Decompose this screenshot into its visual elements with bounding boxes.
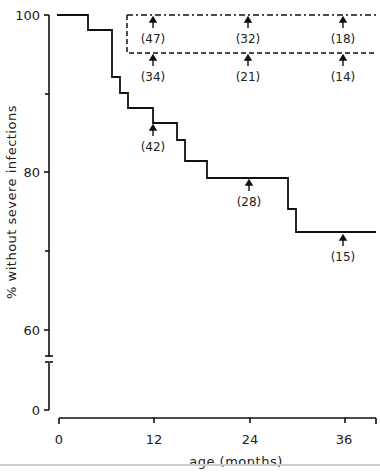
series-solid-step-line — [57, 15, 376, 232]
x-tick-labels: 0 12 24 36 — [55, 432, 352, 447]
x-tick-24: 24 — [242, 432, 259, 447]
y-axis — [44, 15, 53, 410]
y-tick-80: 80 — [23, 165, 40, 180]
at-risk-c-36: (15) — [331, 250, 356, 264]
x-tick-36: 36 — [336, 432, 353, 447]
at-risk-a-36: (18) — [331, 32, 356, 46]
at-risk-a-12: (47) — [141, 32, 166, 46]
y-tick-100: 100 — [15, 8, 40, 23]
bottom-rule — [0, 464, 380, 466]
x-tick-0: 0 — [55, 432, 63, 447]
at-risk-a-24: (32) — [236, 32, 261, 46]
arrow-icon — [150, 17, 156, 22]
at-risk-c-12: (42) — [141, 140, 166, 154]
at-risk-b-12: (34) — [141, 70, 166, 84]
at-risk-b-36: (14) — [331, 70, 356, 84]
x-axis — [59, 418, 376, 424]
y-tick-60: 60 — [23, 323, 40, 338]
at-risk-labels: (47) (32) (18) (34) (21) (14) (42) (28) … — [141, 32, 356, 264]
y-axis-title: % without severe infections — [4, 105, 19, 299]
at-risk-markers — [150, 17, 346, 246]
at-risk-c-24: (28) — [237, 195, 262, 209]
x-tick-12: 12 — [146, 432, 163, 447]
at-risk-b-24: (21) — [236, 70, 261, 84]
survival-chart: 100 80 60 0 % without severe infections … — [0, 0, 380, 472]
x-axis-title: age (months) — [189, 454, 282, 469]
y-tick-0: 0 — [32, 403, 40, 418]
